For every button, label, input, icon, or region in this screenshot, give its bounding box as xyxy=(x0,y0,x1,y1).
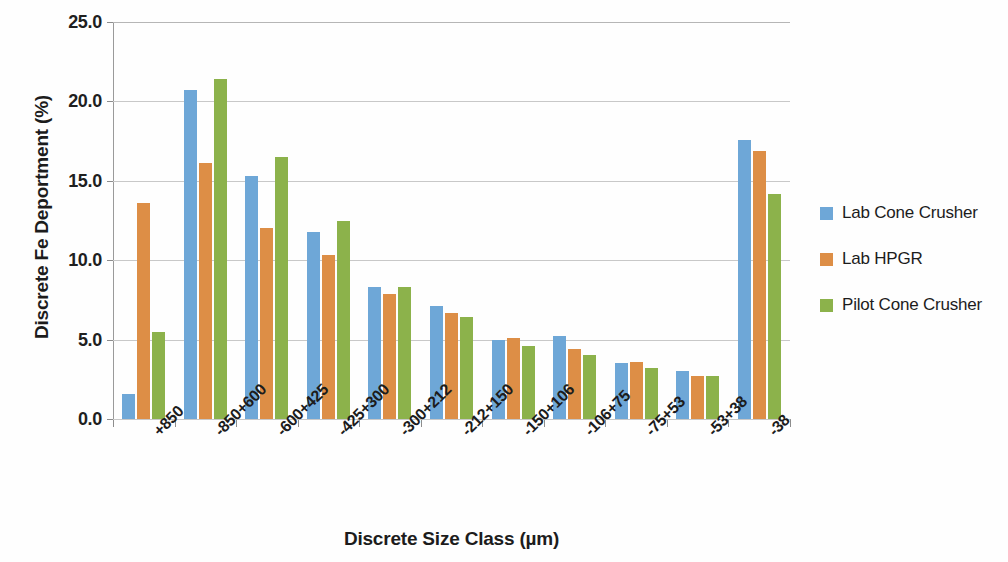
bar xyxy=(583,355,596,419)
bar xyxy=(768,194,781,419)
bar xyxy=(522,346,535,419)
bar-group xyxy=(307,22,350,419)
legend-swatch-orange xyxy=(820,253,833,266)
bar-group xyxy=(492,22,535,419)
bar xyxy=(398,287,411,419)
bar-group xyxy=(184,22,227,419)
bar-group xyxy=(738,22,781,419)
bar-group xyxy=(122,22,165,419)
bar xyxy=(275,157,288,419)
bar-group xyxy=(615,22,658,419)
gridline xyxy=(113,419,790,420)
y-axis-tick-label: 25.0 xyxy=(30,12,102,33)
legend-swatch-green xyxy=(820,299,833,312)
bar xyxy=(152,332,165,419)
bar xyxy=(691,376,704,419)
bar-group xyxy=(553,22,596,419)
bar xyxy=(337,221,350,420)
y-axis-tick-labels: 0.05.010.015.020.025.0 xyxy=(30,0,102,440)
legend-label: Lab Cone Crusher xyxy=(842,203,978,223)
bar xyxy=(122,394,135,419)
legend-item: Lab Cone Crusher xyxy=(820,190,982,236)
bar xyxy=(630,362,643,419)
y-axis-tick-label: 20.0 xyxy=(30,91,102,112)
legend-label: Pilot Cone Crusher xyxy=(842,295,982,315)
bar xyxy=(137,203,150,419)
bar-group xyxy=(368,22,411,419)
bar xyxy=(507,338,520,419)
legend-item: Pilot Cone Crusher xyxy=(820,282,982,328)
bar-group xyxy=(245,22,288,419)
bar xyxy=(199,163,212,419)
x-axis-tick-labels: +850-850+600-600+425-425+300-300+212-212… xyxy=(113,427,790,517)
legend-item: Lab HPGR xyxy=(820,236,982,282)
legend-swatch-blue xyxy=(820,207,833,220)
bar xyxy=(460,317,473,419)
plot-area xyxy=(113,22,790,419)
y-axis-tick-label: 5.0 xyxy=(30,329,102,350)
y-axis-tick-label: 15.0 xyxy=(30,170,102,191)
bar-group xyxy=(676,22,719,419)
chart-legend: Lab Cone CrusherLab HPGRPilot Cone Crush… xyxy=(820,190,982,328)
bar xyxy=(214,79,227,419)
bar xyxy=(738,140,751,419)
y-axis-tick-label: 10.0 xyxy=(30,250,102,271)
x-axis-title: Discrete Size Class (µm) xyxy=(113,528,790,550)
x-axis-tick-mark xyxy=(113,420,114,427)
bar xyxy=(445,313,458,419)
bar xyxy=(753,151,766,419)
legend-label: Lab HPGR xyxy=(842,249,923,269)
bar-chart: Discrete Fe Deportment (%) 0.05.010.015.… xyxy=(0,0,1008,562)
bar-group xyxy=(430,22,473,419)
bar xyxy=(184,90,197,419)
y-axis-tick-label: 0.0 xyxy=(30,409,102,430)
